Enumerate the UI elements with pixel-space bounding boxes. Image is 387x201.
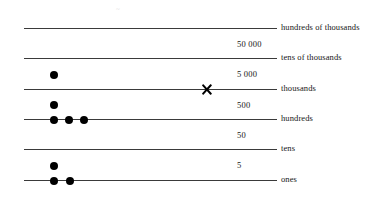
counter-dot-ones-on-line-1[interactable] (50, 177, 58, 185)
place-line-tens-of-thousands (24, 58, 277, 59)
place-label-ones: ones (281, 174, 297, 184)
counter-dot-ones-above-1[interactable] (50, 162, 58, 170)
mid-value-five-thousand: 5 000 (237, 69, 257, 79)
counter-dot-hundreds-above-1[interactable] (50, 101, 58, 109)
mid-value-five-hundred: 500 (237, 100, 250, 110)
mid-value-fifty: 50 (237, 130, 246, 140)
counter-dot-hundreds-on-line-2[interactable] (65, 116, 73, 124)
place-line-hundreds-of-thousands (24, 28, 277, 29)
place-label-hundreds: hundreds (281, 113, 313, 123)
place-line-hundreds (24, 119, 277, 120)
place-line-ones (24, 180, 277, 181)
counter-dot-hundreds-on-line-3[interactable] (80, 116, 88, 124)
scan-artifact: ~ (116, 5, 120, 13)
place-value-diagram: ~ hundreds of thousandstens of thousands… (0, 0, 387, 201)
mid-value-fifty-thousand: 50 000 (237, 39, 262, 49)
place-label-tens: tens (281, 143, 295, 153)
counter-dot-thousands-above-1[interactable] (50, 71, 58, 79)
counter-dot-ones-on-line-2[interactable] (66, 177, 74, 185)
place-label-hundreds-of-thousands: hundreds of thousands (281, 22, 360, 32)
mid-value-five: 5 (237, 160, 241, 170)
place-line-thousands (24, 89, 277, 90)
counter-dot-hundreds-on-line-1[interactable] (50, 116, 58, 124)
place-line-tens (24, 149, 277, 150)
place-label-tens-of-thousands: tens of thousands (281, 52, 342, 62)
place-label-thousands: thousands (281, 83, 316, 93)
